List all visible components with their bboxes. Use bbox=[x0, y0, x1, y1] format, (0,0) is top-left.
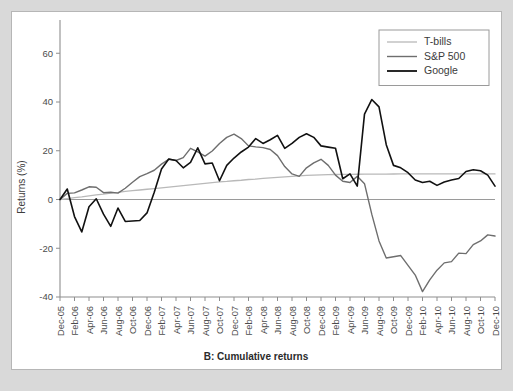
legend-label-s-p-500[interactable]: S&P 500 bbox=[424, 50, 465, 62]
chart-panel: -40-200204060 Dec-05Feb-06Apr-06Jun-06Au… bbox=[11, 11, 502, 370]
x-tick-label: Apr-10 bbox=[433, 306, 443, 334]
chart-caption: B: Cumulative returns bbox=[204, 351, 309, 362]
x-tick-label: Aug-06 bbox=[114, 306, 124, 336]
x-tick-label: Feb-10 bbox=[418, 306, 428, 335]
x-tick-label: Apr-06 bbox=[85, 306, 95, 334]
figure-page: -40-200204060 Dec-05Feb-06Apr-06Jun-06Au… bbox=[0, 0, 513, 391]
returns-line-chart: -40-200204060 Dec-05Feb-06Apr-06Jun-06Au… bbox=[12, 12, 501, 369]
x-tick-label: Jun-06 bbox=[99, 306, 109, 334]
legend-label-t-bills[interactable]: T-bills bbox=[424, 35, 451, 47]
x-tick-label: Oct-07 bbox=[215, 306, 225, 334]
x-tick-label: Dec-10 bbox=[491, 306, 501, 336]
series-group bbox=[60, 100, 495, 292]
x-tick-label: Jun-09 bbox=[360, 306, 370, 334]
x-tick-label: Aug-08 bbox=[288, 306, 298, 336]
x-tick-label: Aug-10 bbox=[462, 306, 472, 336]
x-tick-label: Dec-09 bbox=[404, 306, 414, 336]
x-axis: Dec-05Feb-06Apr-06Jun-06Aug-06Oct-06Dec-… bbox=[56, 297, 501, 336]
x-tick-label: Jun-07 bbox=[186, 306, 196, 334]
x-tick-label: Apr-08 bbox=[259, 306, 269, 334]
x-tick-label: Dec-05 bbox=[56, 306, 66, 336]
x-tick-label: Jun-08 bbox=[273, 306, 283, 334]
y-tick-label: 60 bbox=[42, 48, 53, 59]
x-tick-label: Oct-06 bbox=[128, 306, 138, 334]
x-tick-label: Apr-09 bbox=[346, 306, 356, 334]
x-tick-label: Dec-06 bbox=[143, 306, 153, 336]
x-tick-label: Jun-10 bbox=[447, 306, 457, 334]
x-tick-label: Feb-09 bbox=[331, 306, 341, 335]
y-tick-label: -40 bbox=[39, 291, 53, 302]
x-tick-label: Apr-07 bbox=[172, 306, 182, 334]
legend-label-google[interactable]: Google bbox=[424, 64, 458, 76]
chart-legend[interactable]: T-billsS&P 500Google bbox=[379, 30, 489, 86]
y-axis: -40-200204060 bbox=[39, 20, 60, 302]
x-tick-label: Aug-07 bbox=[201, 306, 211, 336]
x-tick-label: Feb-06 bbox=[70, 306, 80, 335]
y-tick-label: 40 bbox=[42, 96, 53, 107]
series-line-t-bills bbox=[60, 174, 495, 200]
series-line-google bbox=[60, 100, 495, 232]
y-axis-title: Returns (%) bbox=[16, 160, 27, 213]
x-tick-label: Feb-07 bbox=[157, 306, 167, 335]
y-tick-label: -20 bbox=[39, 243, 53, 254]
x-tick-label: Feb-08 bbox=[244, 306, 254, 335]
x-tick-label: Oct-08 bbox=[302, 306, 312, 334]
x-tick-label: Dec-07 bbox=[230, 306, 240, 336]
x-tick-label: Dec-08 bbox=[317, 306, 327, 336]
y-tick-label: 0 bbox=[48, 194, 53, 205]
x-tick-label: Aug-09 bbox=[375, 306, 385, 336]
x-tick-label: Oct-10 bbox=[476, 306, 486, 334]
y-tick-label: 20 bbox=[42, 145, 53, 156]
x-tick-label: Oct-09 bbox=[389, 306, 399, 334]
series-line-s-p-500 bbox=[60, 134, 495, 291]
